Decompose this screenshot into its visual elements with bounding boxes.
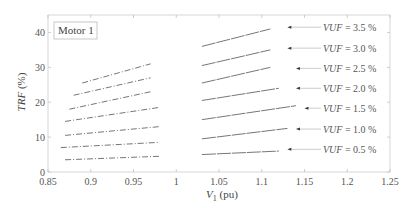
arrow-icon xyxy=(287,47,291,50)
x-tick-label: 1.2 xyxy=(341,176,354,187)
x-tick-label: 0.9 xyxy=(85,176,98,187)
x-axis-label: V1 (pu) xyxy=(206,188,238,203)
arrow-icon xyxy=(296,67,300,70)
y-tick-label: 10 xyxy=(35,132,45,143)
motor-label-box: Motor 1 xyxy=(54,22,97,39)
y-tick-label: 20 xyxy=(35,97,45,108)
series-line xyxy=(69,92,150,109)
y-tick-label: 30 xyxy=(35,62,45,73)
y-tick-label: 40 xyxy=(35,27,45,38)
series-line xyxy=(202,88,279,100)
x-tick-label: 1 xyxy=(174,176,179,187)
series-line xyxy=(74,78,151,95)
x-tick-label: 1.15 xyxy=(296,176,314,187)
series-line xyxy=(61,142,159,147)
y-tick-label: 0 xyxy=(40,167,45,178)
arrow-icon xyxy=(287,26,291,29)
trf-vs-voltage-chart: 0.850.90.9511.051.11.151.21.25010203040 … xyxy=(0,0,416,208)
data-series xyxy=(61,29,296,160)
x-tick-label: 0.85 xyxy=(39,176,57,187)
vuf-label: VUF = 2.5 % xyxy=(323,63,376,74)
arrow-icon xyxy=(296,128,300,131)
vuf-label: VUF = 2.0 % xyxy=(323,83,376,94)
x-tick-label: 0.95 xyxy=(125,176,143,187)
legend-annotations: VUF = 3.5 %VUF = 3.0 %VUF = 2.5 %VUF = 2… xyxy=(287,22,376,155)
x-tick-label: 1.1 xyxy=(256,176,269,187)
series-line xyxy=(202,106,296,120)
arrow-icon xyxy=(305,107,309,110)
series-line xyxy=(65,127,159,136)
series-line xyxy=(202,29,270,46)
series-line xyxy=(65,107,159,121)
motor-label: Motor 1 xyxy=(58,24,94,36)
vuf-label: VUF = 1.0 % xyxy=(323,124,376,135)
arrow-icon xyxy=(287,148,291,151)
arrow-icon xyxy=(296,87,300,90)
plot-axes: 0.850.90.9511.051.11.151.21.25010203040 xyxy=(35,15,399,187)
x-tick-label: 1.05 xyxy=(210,176,228,187)
vuf-label: VUF = 1.5 % xyxy=(323,103,376,114)
series-line xyxy=(202,50,270,66)
vuf-label: VUF = 0.5 % xyxy=(323,144,376,155)
x-tick-label: 1.25 xyxy=(381,176,399,187)
series-line xyxy=(202,67,270,83)
series-line xyxy=(65,156,159,159)
vuf-label: VUF = 3.5 % xyxy=(323,22,376,33)
y-axis-label: TRF (%) xyxy=(15,72,28,111)
series-line xyxy=(202,151,279,154)
vuf-label: VUF = 3.0 % xyxy=(323,43,376,54)
series-line xyxy=(202,128,288,138)
